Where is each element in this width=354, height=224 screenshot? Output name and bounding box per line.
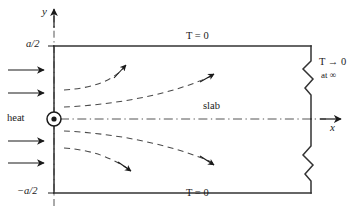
heat-flux-streamlines [64, 68, 216, 170]
label-far-field-temperature: T → 0 [319, 57, 346, 68]
label-top-boundary-condition: T = 0 [186, 31, 209, 42]
slab-right-edge-upper-break [303, 46, 313, 119]
flux-arrowhead-upper-outer [114, 65, 126, 78]
label-half-width-top: a/2 [26, 39, 39, 50]
figure-root: y x a/2 −a/2 heat slab T = 0 T = 0 T → 0… [0, 0, 354, 224]
label-bottom-boundary-condition: T = 0 [186, 188, 209, 199]
slab-diagram-svg [0, 0, 354, 224]
label-half-width-bottom: −a/2 [17, 186, 38, 197]
heat-source-dot [51, 116, 56, 121]
y-axis-label: y [42, 6, 47, 17]
flux-curve-lower-outer [64, 148, 130, 170]
flux-curve-upper-inner [64, 74, 216, 107]
flux-arrowhead-lower-inner [200, 156, 214, 165]
label-far-field-condition: at ∞ [321, 71, 336, 80]
x-axis-label: x [330, 122, 335, 133]
label-heat: heat [7, 113, 25, 124]
flux-arrowhead-lower-outer [118, 162, 131, 171]
flux-curve-upper-outer [64, 68, 124, 90]
slab-right-edge-lower-break [303, 119, 313, 193]
heat-source-marker [47, 112, 61, 126]
flux-curve-lower-inner [64, 131, 216, 164]
flux-arrowhead-upper-inner [200, 74, 214, 82]
label-slab: slab [203, 101, 220, 112]
